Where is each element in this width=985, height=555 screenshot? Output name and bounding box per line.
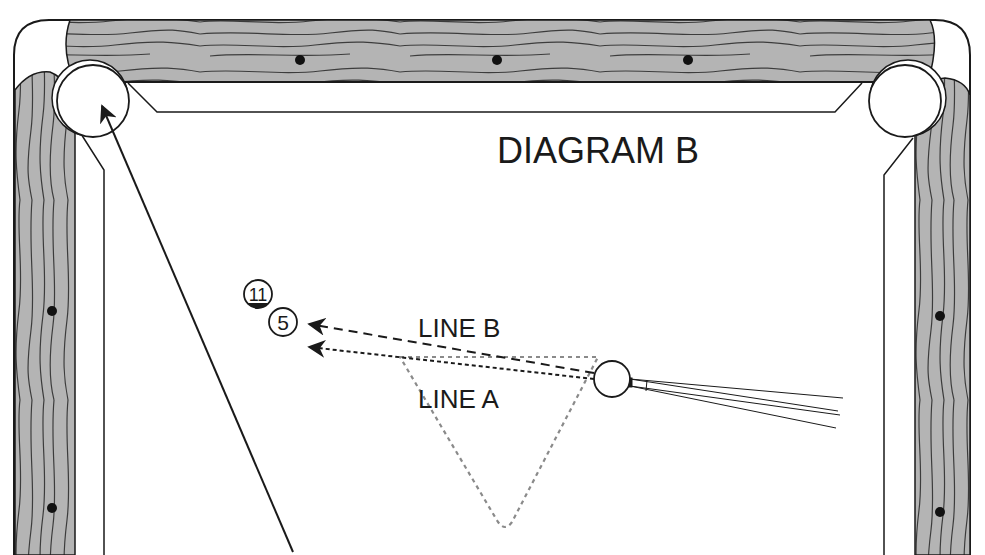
diamond-marker bbox=[935, 311, 945, 321]
diamond-marker bbox=[47, 306, 57, 316]
diamond-marker bbox=[295, 55, 305, 65]
left-rail bbox=[15, 72, 75, 555]
table-outer-frame bbox=[14, 20, 970, 555]
diamond-marker bbox=[935, 507, 945, 517]
diamond-marker bbox=[47, 503, 57, 513]
top-rail bbox=[66, 20, 935, 82]
line-b-label: LINE B bbox=[418, 313, 500, 343]
ball-11-number: 11 bbox=[249, 285, 268, 305]
diagram-title: DIAGRAM B bbox=[497, 130, 699, 171]
ball-5-number: 5 bbox=[277, 311, 289, 334]
pocket-top-left bbox=[52, 60, 129, 137]
cue-ball bbox=[594, 361, 630, 397]
line-a-label: LINE A bbox=[418, 384, 500, 414]
diamond-marker bbox=[492, 55, 502, 65]
diamond-marker bbox=[683, 55, 693, 65]
pool-table-diagram: DIAGRAM B LINE B LINE A 11 5 bbox=[0, 0, 985, 555]
ball-5: 5 bbox=[269, 308, 297, 336]
pocket-top-right bbox=[869, 60, 946, 137]
